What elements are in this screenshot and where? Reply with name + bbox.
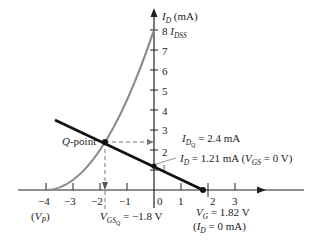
y-axis-label: ID (mA) (162, 11, 198, 25)
y-tick-label-5: 5 (162, 86, 168, 97)
x-tick-label-neg2: −2 (91, 196, 103, 207)
id-intercept-label: ID = 1.21 mA (VGS = 0 V) (180, 153, 292, 167)
y-tick-label-1: 1 (162, 165, 166, 173)
vgsq-arrow-icon (102, 182, 108, 190)
id-intercept-marker (151, 163, 156, 168)
vgsq-label: VGSQ = −1.8 V (100, 211, 162, 226)
y-tick-label-2: 2 (162, 147, 168, 158)
y-tick-label-6: 6 (162, 66, 168, 77)
vg-label: VG = 1.82 V (196, 207, 250, 221)
x-tick-label-neg3: −3 (64, 196, 76, 207)
q-point-marker (102, 139, 108, 145)
x-tick-label-0: 0 (157, 196, 163, 207)
y-tick-label-7: 7 (162, 46, 168, 57)
vp-label: (VP) (31, 211, 50, 225)
x-axis-arrow-icon (257, 187, 266, 194)
x-tick-label-1: 1 (178, 196, 184, 207)
x-tick-label-neg1: −1 (119, 196, 131, 207)
x-tick-label-neg4: −4 (38, 196, 50, 207)
idq-arrow-icon (147, 139, 154, 145)
q-point-label: Q-point (62, 136, 96, 147)
idq-label: IDQ = 2.4 mA (182, 133, 240, 148)
y-tick-label-4: 4 (162, 106, 168, 117)
id-intercept-leader (156, 158, 176, 164)
y-tick-label-3: 3 (162, 125, 168, 136)
transfer-curve (46, 30, 154, 190)
vg-intercept-marker (200, 187, 206, 193)
y-axis-arrow-icon (151, 8, 158, 17)
idss-label: 8 IDSS (162, 26, 187, 40)
vg-note-label: (ID = 0 mA) (193, 221, 246, 235)
